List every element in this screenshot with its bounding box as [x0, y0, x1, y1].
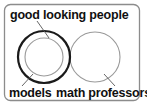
label-models: models [9, 87, 52, 100]
label-good-looking-people: good looking people [10, 9, 128, 22]
label-math-professors: math professors [56, 87, 147, 100]
circle-models [18, 31, 70, 83]
venn-diagram-screenshot: good looking people models math professo… [0, 0, 147, 107]
